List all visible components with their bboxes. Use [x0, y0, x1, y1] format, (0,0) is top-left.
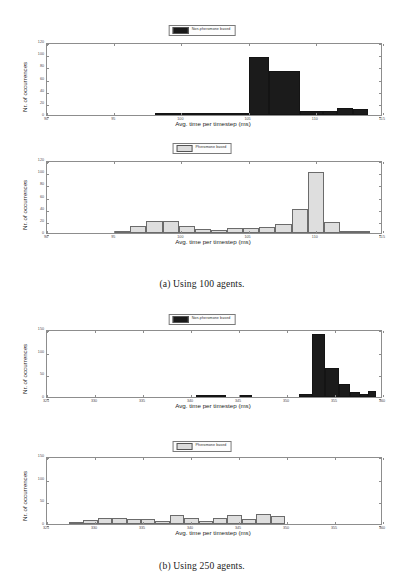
histogram-bar [340, 231, 356, 233]
x-tick-label: 335 [139, 527, 145, 531]
histogram-bar [213, 518, 227, 524]
x-tick [316, 113, 317, 115]
y-tick-right [379, 81, 381, 82]
histogram-bar [227, 228, 243, 233]
y-tick-right [379, 331, 381, 332]
x-tick-top [249, 162, 250, 164]
histogram-bar [292, 209, 308, 233]
x-tick [287, 522, 288, 524]
x-tick-top [287, 458, 288, 460]
y-tick-right [379, 68, 381, 69]
histogram-bar [181, 113, 194, 115]
x-tick [316, 231, 317, 233]
y-tick-label: 0 [34, 523, 44, 527]
x-tick-label: 105 [245, 118, 251, 122]
y-tick-label: 80 [34, 183, 44, 187]
y-tick-label: 80 [34, 65, 44, 69]
y-tick [47, 105, 49, 106]
y-tick-right [379, 44, 381, 45]
legend-swatch-dark-icon [173, 27, 189, 34]
histogram-bar [275, 224, 291, 233]
histogram-bar [112, 518, 126, 524]
x-tick [181, 231, 182, 233]
x-tick-top [383, 162, 384, 164]
histogram-bar [199, 521, 213, 524]
y-tick [47, 223, 49, 224]
histogram-bar [368, 391, 377, 397]
histogram-bar [271, 516, 285, 524]
histogram-bar [256, 514, 270, 524]
x-axis-title: Avg. time per timestep (ms) [175, 530, 251, 536]
bar-series [47, 458, 381, 524]
x-tick [383, 395, 384, 397]
y-tick-label: 50 [34, 500, 44, 504]
x-tick-top [95, 458, 96, 460]
figure-page: Non-pheromone based Avg. time per timest… [0, 0, 404, 588]
x-tick [95, 522, 96, 524]
histogram-bar [353, 109, 368, 115]
histogram-bar [360, 394, 368, 397]
y-tick-right [379, 162, 381, 163]
histogram-bar [170, 515, 184, 524]
histogram-bar [227, 515, 241, 524]
x-tick-label: 95 [111, 236, 115, 240]
histogram-bar [155, 521, 169, 524]
x-tick-label: 100 [177, 118, 183, 122]
plot-area [46, 161, 382, 234]
y-tick-right [379, 376, 381, 377]
y-tick-label: 50 [34, 373, 44, 377]
x-tick-top [181, 44, 182, 46]
x-tick-top [383, 331, 384, 333]
chart-b-pheromone: Pheromone based Avg. time per timestep (… [0, 438, 404, 566]
legend-pheromone: Pheromone based [173, 143, 232, 154]
bar-series [47, 331, 381, 397]
histogram-bar [130, 226, 146, 233]
y-tick-label: 100 [34, 351, 44, 355]
x-tick-top [143, 331, 144, 333]
y-tick-label: 100 [34, 171, 44, 175]
x-tick-label: 355 [331, 400, 337, 404]
histogram-bar [356, 231, 369, 233]
x-tick-top [316, 44, 317, 46]
y-tick-label: 0 [34, 114, 44, 118]
histogram-bar [163, 221, 179, 233]
x-tick-label: 90 [44, 236, 48, 240]
histogram-bar [222, 113, 235, 115]
histogram-bar [269, 71, 300, 115]
y-tick-label: 40 [34, 208, 44, 212]
histogram-bar [324, 222, 340, 233]
bar-series [47, 162, 381, 233]
x-tick [95, 395, 96, 397]
legend-label: Pheromone based [196, 444, 227, 448]
histogram-bar [239, 395, 252, 397]
histogram-bar [325, 368, 338, 397]
y-tick [47, 93, 49, 94]
x-tick-label: 350 [283, 400, 289, 404]
histogram-bar [114, 231, 130, 233]
x-tick-top [239, 458, 240, 460]
x-tick-label: 110 [312, 118, 318, 122]
y-tick [47, 503, 49, 504]
x-tick-label: 355 [331, 527, 337, 531]
y-tick-label: 100 [34, 478, 44, 482]
x-tick-label: 350 [283, 527, 289, 531]
y-tick [47, 481, 49, 482]
x-tick [181, 113, 182, 115]
x-tick [239, 395, 240, 397]
y-tick-label: 0 [34, 396, 44, 400]
legend-swatch-light-icon [177, 443, 193, 450]
histogram-bar [155, 113, 168, 115]
y-tick [47, 199, 49, 200]
legend-swatch-light-icon [177, 145, 193, 152]
histogram-bar [195, 229, 211, 233]
y-tick-right [379, 211, 381, 212]
x-tick-label: 330 [91, 400, 97, 404]
x-tick-label: 360 [379, 527, 385, 531]
legend-non-pheromone: Non-pheromone based [169, 314, 236, 325]
histogram-bar [98, 518, 112, 524]
histogram-bar [259, 227, 275, 233]
x-tick-top [143, 458, 144, 460]
x-tick-label: 95 [111, 118, 115, 122]
x-tick-label: 345 [235, 527, 241, 531]
y-tick-right [379, 186, 381, 187]
